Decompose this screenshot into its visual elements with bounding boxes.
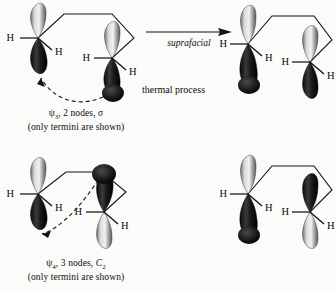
left-terminus-orbital: H H	[219, 5, 273, 94]
right-terminus-orbital: H H	[281, 173, 335, 248]
h-label: H	[219, 188, 227, 199]
orbital-reaction-figure: H H H H	[0, 0, 336, 292]
suprafacial-reactant-caption: ψ3, 2 nodes, σ (only termini are shown)	[0, 108, 152, 134]
h-label: H	[281, 206, 289, 217]
caption-line-2: (only termini are shown)	[0, 272, 152, 284]
h-label: H	[265, 52, 273, 63]
h-label: H	[55, 46, 63, 57]
left-terminus-orbital: H H	[219, 155, 273, 244]
h-label: H	[327, 220, 335, 231]
bond-formation-arrow	[42, 180, 98, 238]
orbital-ball	[238, 226, 260, 244]
antarafacial-reactant-structure: H H H H	[0, 146, 150, 292]
caption-line-1: ψ3, 2 nodes, σ	[49, 108, 104, 118]
antarafacial-product-structure: H H H H	[222, 146, 336, 292]
bond-formation-arrow	[37, 78, 103, 102]
right-terminus-orbital: H H	[82, 21, 137, 102]
antarafacial-row: H H H H	[0, 146, 336, 292]
caption-line-1: ψ4, 3 nodes, C2	[46, 258, 105, 268]
orbital-ball	[102, 84, 124, 102]
orbital-ball	[92, 164, 116, 184]
h-label: H	[6, 188, 14, 199]
h-label: H	[82, 52, 90, 63]
left-terminus-orbital: H H	[6, 157, 63, 229]
h-label: H	[219, 38, 227, 49]
caption-line-2: (only termini are shown)	[0, 122, 152, 134]
thermal-process-note: thermal process	[142, 84, 205, 95]
right-terminus-orbital: H H	[281, 25, 335, 98]
h-label: H	[55, 202, 63, 213]
right-terminus-orbital: H H	[74, 164, 129, 249]
h-label: H	[327, 70, 335, 81]
antarafacial-reactant-caption: ψ4, 3 nodes, C2 (only termini are shown)	[0, 258, 152, 284]
h-label: H	[281, 56, 289, 67]
orbital-ball	[238, 76, 260, 94]
h-label: H	[265, 202, 273, 213]
suprafacial-row: H H H H	[0, 0, 336, 146]
suprafacial-reactant-structure: H H H H	[0, 0, 150, 146]
h-label: H	[129, 66, 137, 77]
h-label: H	[74, 206, 82, 217]
left-terminus-orbital: H H	[6, 3, 63, 73]
h-label: H	[6, 32, 14, 43]
h-label: H	[121, 220, 129, 231]
suprafacial-product-structure: H H H H	[222, 0, 336, 146]
